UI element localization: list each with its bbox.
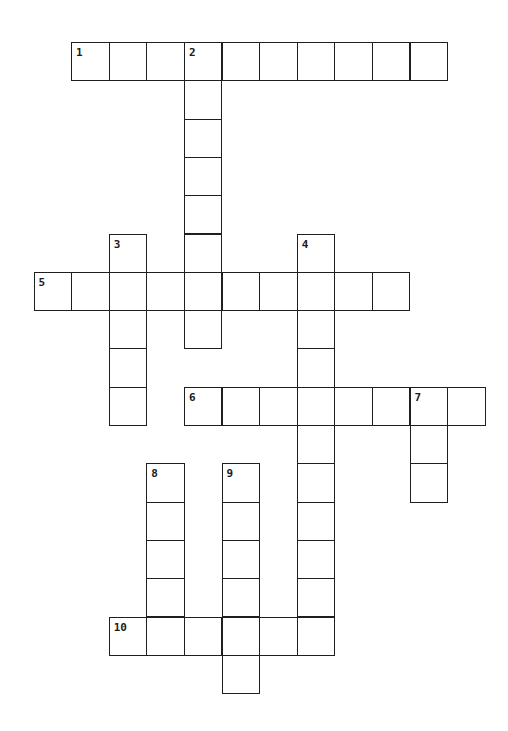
crossword-cell[interactable] <box>334 272 373 311</box>
crossword-cell[interactable] <box>109 272 148 311</box>
crossword-cell[interactable] <box>146 42 185 81</box>
crossword-cell[interactable]: 4 <box>297 234 336 273</box>
crossword-cell[interactable] <box>222 617 261 656</box>
crossword-cell[interactable] <box>259 272 298 311</box>
crossword-cell[interactable] <box>184 272 223 311</box>
clue-number: 6 <box>189 392 196 403</box>
crossword-cell[interactable] <box>259 42 298 81</box>
crossword-cell[interactable] <box>222 387 261 426</box>
crossword-cell[interactable] <box>146 617 185 656</box>
crossword-cell[interactable] <box>71 272 110 311</box>
crossword-cell[interactable] <box>146 502 185 541</box>
crossword-cell[interactable] <box>297 540 336 579</box>
crossword-cell[interactable]: 8 <box>146 463 185 502</box>
crossword-cell[interactable] <box>184 119 223 158</box>
crossword-grid: 12345678910 <box>0 0 508 731</box>
clue-number: 9 <box>227 468 234 479</box>
crossword-cell[interactable] <box>184 617 223 656</box>
crossword-cell[interactable]: 1 <box>71 42 110 81</box>
crossword-cell[interactable] <box>222 655 261 694</box>
crossword-cell[interactable] <box>109 42 148 81</box>
crossword-cell[interactable] <box>372 272 411 311</box>
clue-number: 2 <box>189 47 196 58</box>
crossword-cell[interactable] <box>109 387 148 426</box>
crossword-cell[interactable] <box>297 425 336 464</box>
crossword-cell[interactable] <box>184 195 223 234</box>
clue-number: 5 <box>39 277 46 288</box>
crossword-cell[interactable] <box>222 272 261 311</box>
clue-number: 8 <box>151 468 158 479</box>
clue-number: 7 <box>415 392 422 403</box>
crossword-cell[interactable]: 9 <box>222 463 261 502</box>
crossword-cell[interactable] <box>184 234 223 273</box>
crossword-cell[interactable] <box>297 502 336 541</box>
crossword-cell[interactable] <box>222 42 261 81</box>
crossword-cell[interactable] <box>184 80 223 119</box>
crossword-cell[interactable]: 5 <box>34 272 73 311</box>
clue-number: 3 <box>114 239 121 250</box>
crossword-cell[interactable] <box>447 387 486 426</box>
crossword-cell[interactable] <box>222 502 261 541</box>
crossword-cell[interactable] <box>109 310 148 349</box>
crossword-cell[interactable] <box>410 425 449 464</box>
crossword-cell[interactable]: 6 <box>184 387 223 426</box>
crossword-cell[interactable] <box>410 42 449 81</box>
crossword-cell[interactable]: 2 <box>184 42 223 81</box>
crossword-cell[interactable] <box>334 387 373 426</box>
crossword-cell[interactable] <box>297 387 336 426</box>
crossword-cell[interactable] <box>372 42 411 81</box>
clue-number: 10 <box>114 622 127 633</box>
clue-number: 1 <box>76 47 83 58</box>
crossword-cell[interactable]: 7 <box>410 387 449 426</box>
crossword-cell[interactable] <box>372 387 411 426</box>
crossword-cell[interactable] <box>184 310 223 349</box>
crossword-cell[interactable] <box>297 617 336 656</box>
crossword-cell[interactable] <box>146 540 185 579</box>
clue-number: 4 <box>302 239 309 250</box>
crossword-cell[interactable] <box>297 463 336 502</box>
crossword-cell[interactable] <box>222 578 261 617</box>
crossword-cell[interactable] <box>297 42 336 81</box>
crossword-cell[interactable] <box>334 42 373 81</box>
crossword-cell[interactable] <box>259 617 298 656</box>
crossword-cell[interactable] <box>184 157 223 196</box>
crossword-cell[interactable] <box>146 578 185 617</box>
crossword-cell[interactable] <box>259 387 298 426</box>
crossword-cell[interactable] <box>222 540 261 579</box>
crossword-cell[interactable] <box>297 272 336 311</box>
crossword-cell[interactable]: 3 <box>109 234 148 273</box>
crossword-cell[interactable] <box>297 578 336 617</box>
crossword-cell[interactable] <box>109 348 148 387</box>
crossword-cell[interactable] <box>146 272 185 311</box>
crossword-cell[interactable]: 10 <box>109 617 148 656</box>
crossword-cell[interactable] <box>297 348 336 387</box>
crossword-cell[interactable] <box>410 463 449 502</box>
crossword-cell[interactable] <box>297 310 336 349</box>
